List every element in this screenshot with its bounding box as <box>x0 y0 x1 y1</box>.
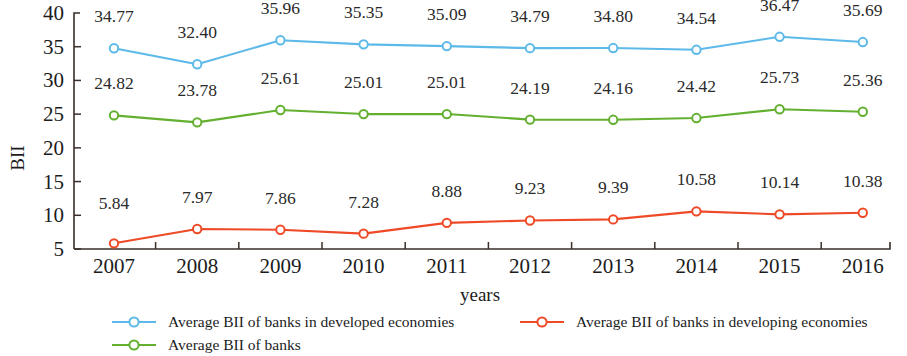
x-axis-tick-labels: 2007200820092010201120122013201420152016 <box>93 254 884 278</box>
data-label: 5.84 <box>99 193 130 213</box>
data-point-marker <box>193 60 201 68</box>
data-point-marker <box>692 46 700 54</box>
x-tick-label: 2015 <box>759 254 801 278</box>
x-tick-label: 2009 <box>259 254 301 278</box>
data-label: 25.01 <box>344 72 383 92</box>
legend-item[interactable]: Average BII of banks in developing econo… <box>520 313 868 330</box>
data-label: 8.88 <box>431 181 462 201</box>
data-point-marker <box>775 33 783 41</box>
data-point-marker <box>526 115 534 123</box>
data-point-marker <box>609 116 617 124</box>
data-label: 25.01 <box>427 72 466 92</box>
series-2 <box>110 207 867 247</box>
data-point-marker <box>359 40 367 48</box>
data-point-marker <box>692 114 700 122</box>
legend-label: Average BII of banks <box>168 336 301 353</box>
data-point-marker <box>110 44 118 52</box>
y-tick-label: 25 <box>43 102 64 126</box>
y-tick-label: 5 <box>54 237 65 261</box>
data-label: 35.69 <box>843 0 883 20</box>
x-axis-ticks <box>156 242 822 249</box>
y-axis-title: BII <box>7 145 28 170</box>
y-tick-label: 20 <box>43 136 64 160</box>
data-label: 23.78 <box>178 80 218 100</box>
data-point-marker <box>359 229 367 237</box>
legend-label: Average BII of banks in developed econom… <box>168 313 454 330</box>
data-label: 32.40 <box>178 22 218 42</box>
data-point-marker <box>526 216 534 224</box>
data-point-marker <box>692 207 700 215</box>
y-tick-label: 15 <box>43 170 64 194</box>
data-point-marker <box>609 44 617 52</box>
y-tick-label: 30 <box>43 68 64 92</box>
x-tick-label: 2007 <box>93 254 135 278</box>
data-label: 35.09 <box>427 4 467 24</box>
data-point-marker <box>276 106 284 114</box>
data-label: 24.42 <box>677 76 716 96</box>
data-point-marker <box>443 110 451 118</box>
series-line <box>114 37 863 64</box>
data-label: 7.28 <box>348 192 379 212</box>
line-chart: BII 510152025303540 20072008200920102011… <box>0 0 907 356</box>
legend-marker-icon <box>129 340 138 349</box>
data-label: 7.86 <box>265 188 296 208</box>
data-point-marker <box>443 42 451 50</box>
x-tick-label: 2014 <box>675 254 718 278</box>
chart-canvas: BII 510152025303540 20072008200920102011… <box>0 0 907 356</box>
data-point-marker <box>775 210 783 218</box>
y-axis-ticks <box>74 47 81 249</box>
data-point-marker <box>193 225 201 233</box>
data-label: 25.36 <box>843 70 883 90</box>
chart-legend: Average BII of banks in developed econom… <box>112 313 868 353</box>
x-tick-label: 2011 <box>426 254 467 278</box>
legend-label: Average BII of banks in developing econo… <box>576 313 868 330</box>
x-axis-title: years <box>460 284 500 305</box>
data-label: 34.54 <box>677 8 717 28</box>
x-axis-line <box>74 242 890 249</box>
data-point-marker <box>859 38 867 46</box>
data-label: 7.97 <box>182 187 213 207</box>
data-point-marker <box>110 111 118 119</box>
legend-item[interactable]: Average BII of banks <box>112 336 301 353</box>
data-label: 10.38 <box>843 171 883 191</box>
data-label: 25.73 <box>760 67 800 87</box>
legend-marker-icon <box>537 317 546 326</box>
data-label: 34.80 <box>594 6 634 26</box>
x-tick-label: 2016 <box>842 254 884 278</box>
data-point-marker <box>193 118 201 126</box>
y-axis-line <box>74 13 80 249</box>
data-label: 36.47 <box>760 0 800 15</box>
legend-item[interactable]: Average BII of banks in developed econom… <box>112 313 454 330</box>
y-axis-title-group: BII <box>7 145 28 170</box>
y-tick-label: 40 <box>43 1 64 25</box>
y-tick-label: 35 <box>43 35 64 59</box>
data-point-marker <box>609 215 617 223</box>
y-axis-tick-labels: 510152025303540 <box>43 1 64 261</box>
data-label: 10.58 <box>677 169 717 189</box>
y-tick-label: 10 <box>43 203 64 227</box>
series-line <box>114 109 863 122</box>
data-point-marker <box>859 108 867 116</box>
data-point-marker <box>110 239 118 247</box>
data-point-marker <box>775 105 783 113</box>
data-label: 24.82 <box>94 73 133 93</box>
data-label: 25.61 <box>261 68 300 88</box>
data-label: 24.16 <box>594 78 634 98</box>
x-tick-label: 2008 <box>176 254 218 278</box>
data-point-marker <box>276 226 284 234</box>
legend-marker-icon <box>129 317 138 326</box>
series-group <box>110 33 867 248</box>
data-label: 9.23 <box>515 178 546 198</box>
data-labels-group: 34.7732.4035.9635.3535.0934.7934.8034.54… <box>94 0 882 213</box>
data-label: 10.14 <box>760 172 800 192</box>
data-label: 35.96 <box>261 0 301 18</box>
data-point-marker <box>276 36 284 44</box>
data-point-marker <box>859 209 867 217</box>
data-point-marker <box>526 44 534 52</box>
series-1 <box>110 33 867 69</box>
data-label: 35.35 <box>344 2 384 22</box>
data-label: 9.39 <box>598 177 629 197</box>
x-tick-label: 2013 <box>592 254 634 278</box>
data-label: 34.77 <box>94 6 134 26</box>
series-line <box>114 211 863 243</box>
